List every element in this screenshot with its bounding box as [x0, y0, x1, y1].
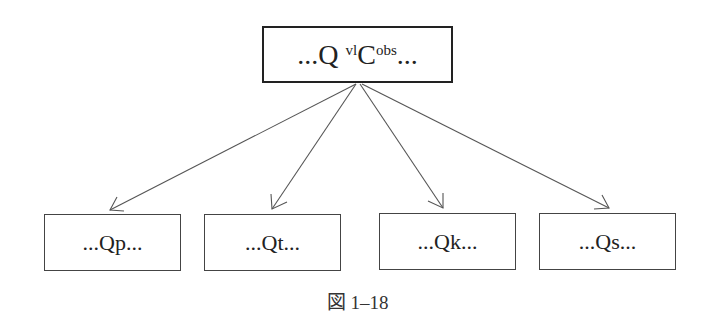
- figure-caption: 図 1–18: [0, 287, 715, 314]
- child-label: ...Qp...: [83, 230, 143, 256]
- arrow-to-qp: [110, 84, 356, 210]
- child-label: ...Qt...: [245, 230, 300, 256]
- child-node-qp: ...Qp...: [44, 214, 181, 271]
- root-label: ...Q vlCobs...: [297, 39, 417, 71]
- root-node: ...Q vlCobs...: [262, 26, 453, 83]
- child-node-qk: ...Qk...: [379, 213, 516, 270]
- child-node-qt: ...Qt...: [204, 214, 341, 271]
- arrow-to-qs: [362, 84, 609, 208]
- arrow-to-qt: [272, 84, 356, 209]
- arrowhead-qk: [428, 193, 443, 208]
- child-label: ...Qk...: [418, 229, 478, 255]
- child-label: ...Qs...: [579, 229, 636, 255]
- arrow-to-qk: [360, 84, 443, 208]
- child-node-qs: ...Qs...: [539, 213, 676, 270]
